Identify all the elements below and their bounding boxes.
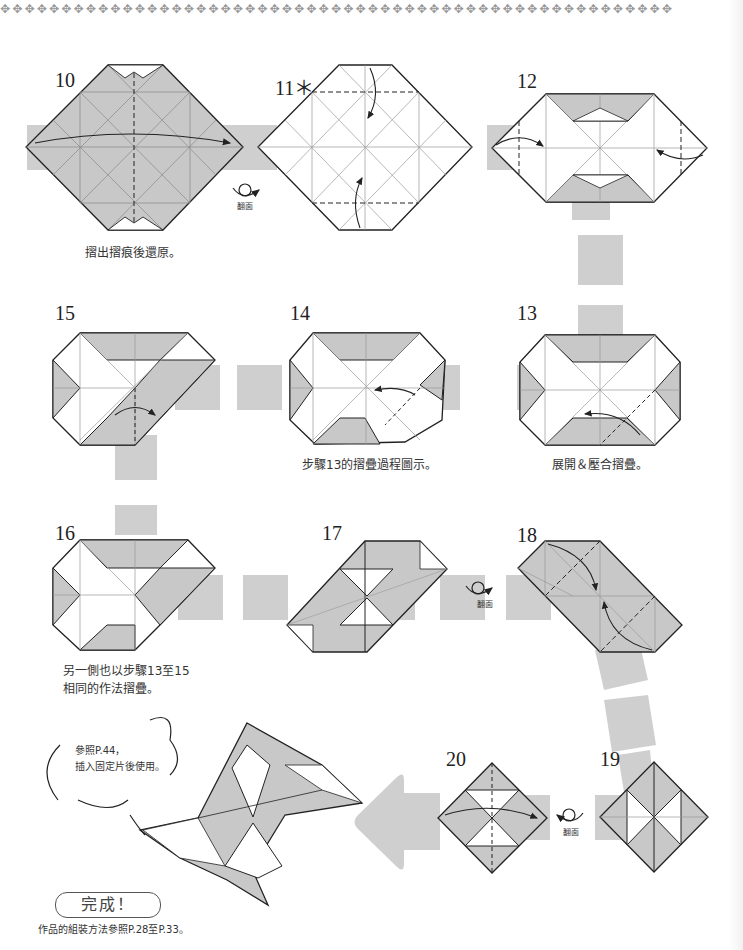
step-13-caption: 展開＆壓合摺疊。 (552, 456, 648, 474)
flip-icon (557, 809, 583, 821)
page-edge-shadow (729, 0, 743, 950)
bubble-line2: 插入固定片後使用。 (75, 759, 165, 774)
step-number-17: 17 (322, 522, 342, 545)
step-14-diagram (290, 333, 445, 444)
step-number-18: 18 (517, 524, 537, 547)
step-number-16: 16 (55, 522, 75, 545)
bubble-line1: 參照P.44， (75, 743, 125, 758)
step-number-11: 11＊ (275, 72, 314, 101)
step-20-diagram (438, 763, 547, 873)
step-14-caption: 步驟13的摺疊過程圖示。 (302, 456, 437, 474)
finished-model (140, 723, 362, 905)
step-19-diagram (600, 762, 708, 872)
step-number-12: 12 (517, 70, 537, 93)
flip-label: 翻面 (477, 598, 493, 609)
step-number-20: 20 (446, 748, 466, 771)
step-number-14: 14 (290, 302, 310, 325)
step-17-diagram (287, 541, 447, 652)
step-10-caption: 摺出摺痕後還原。 (85, 244, 181, 262)
flip-label: 翻面 (563, 826, 579, 837)
flip-label: 翻面 (237, 200, 253, 211)
flip-icon (233, 184, 259, 196)
step-number-19: 19 (600, 748, 620, 771)
step-number-15: 15 (55, 302, 75, 325)
step-number-13: 13 (517, 302, 537, 325)
step-16-caption-line2: 相同的作法摺疊。 (63, 680, 159, 698)
finish-badge: 完成！ (55, 892, 161, 918)
step-number-10: 10 (55, 69, 75, 92)
step-13-diagram (520, 335, 680, 445)
step-12-diagram (492, 94, 707, 202)
speech-bubble (47, 718, 178, 836)
diagram-canvas (0, 0, 743, 950)
finish-note: 作品的組裝方法參照P.28至P.33。 (38, 921, 189, 939)
step-16-caption-line1: 另一側也以步驟13至15 (63, 662, 190, 680)
